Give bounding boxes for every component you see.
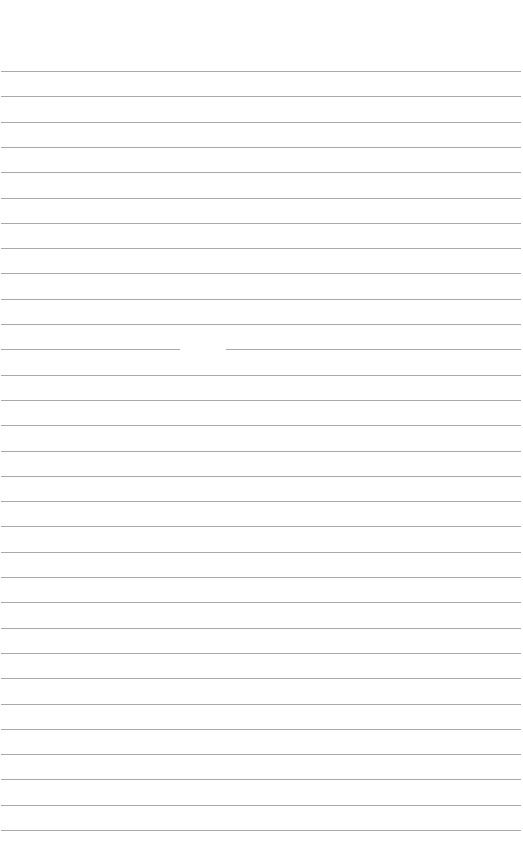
ruled-line [1, 602, 521, 603]
ruled-line [1, 375, 521, 376]
ruled-line [1, 172, 521, 173]
ruled-line [1, 223, 521, 224]
ruled-line [1, 729, 521, 730]
ruled-line [1, 501, 521, 502]
ruled-line [1, 653, 521, 654]
ruled-line [1, 324, 521, 325]
ruled-line [1, 273, 521, 274]
ruled-line [1, 476, 521, 477]
ruled-line [1, 400, 521, 401]
ruled-line [1, 96, 521, 97]
ruled-line [1, 299, 521, 300]
ruled-line [1, 71, 521, 72]
ruled-line [1, 754, 521, 755]
ruled-line [1, 704, 521, 705]
ruled-line [1, 577, 521, 578]
ruled-line [1, 628, 521, 629]
ruled-line [1, 451, 521, 452]
ruled-line [1, 779, 521, 780]
ruled-line [1, 122, 521, 123]
ruled-line [1, 349, 521, 350]
ruled-line [1, 425, 521, 426]
ruled-line-gap [180, 348, 226, 351]
ruled-line [1, 552, 521, 553]
lined-paper-sheet [0, 0, 523, 856]
ruled-line [1, 830, 521, 831]
ruled-line [1, 198, 521, 199]
ruled-line [1, 678, 521, 679]
ruled-line [1, 147, 521, 148]
ruled-line [1, 805, 521, 806]
ruled-line [1, 526, 521, 527]
ruled-line [1, 248, 521, 249]
